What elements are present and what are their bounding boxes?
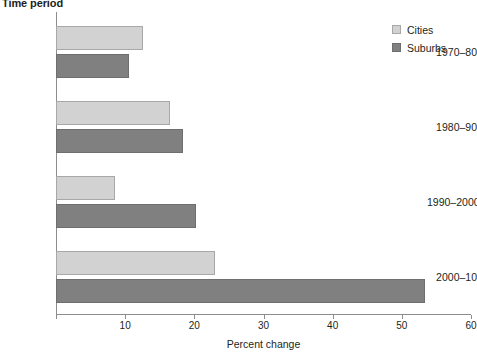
x-axis-tick [56, 315, 57, 319]
bar-suburbs-2 [56, 204, 196, 228]
y-axis-category-label: 1990–2000 [427, 196, 477, 208]
x-axis-title: Percent change [56, 338, 471, 350]
x-axis-tick [194, 315, 195, 319]
x-axis-tick [471, 315, 472, 319]
x-axis-tick-label: 50 [396, 320, 407, 331]
bar-chart: Time period 102030405060 1970–801980–901… [0, 0, 477, 358]
cities-swatch [392, 25, 401, 34]
x-axis-tick-label: 60 [465, 320, 476, 331]
legend-label: Cities [407, 24, 433, 36]
x-axis-tick [125, 315, 126, 319]
x-axis-tick [264, 315, 265, 319]
x-axis-tick [333, 315, 334, 319]
legend-item-cities: Cities [392, 22, 446, 37]
x-axis-tick-label: 30 [258, 320, 269, 331]
legend: CitiesSuburbs [392, 22, 446, 58]
legend-item-suburbs: Suburbs [392, 40, 446, 55]
bar-suburbs-3 [56, 279, 425, 303]
bar-cities-2 [56, 176, 115, 200]
y-axis-title: Time period [2, 0, 63, 9]
x-axis-tick-label: 20 [189, 320, 200, 331]
bar-suburbs-1 [56, 129, 183, 153]
y-axis-category-label: 1980–90 [427, 121, 477, 133]
bar-cities-3 [56, 251, 215, 275]
legend-label: Suburbs [407, 42, 446, 54]
x-axis-tick-label: 10 [120, 320, 131, 331]
x-axis-tick-label: 40 [327, 320, 338, 331]
suburbs-swatch [392, 43, 401, 52]
bar-suburbs-0 [56, 54, 129, 78]
y-axis-category-label: 2000–10 [427, 271, 477, 283]
bar-cities-0 [56, 26, 143, 50]
x-axis-tick [402, 315, 403, 319]
bar-cities-1 [56, 101, 170, 125]
